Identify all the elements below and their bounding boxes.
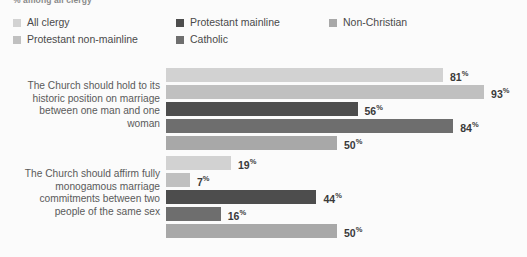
legend-item-non-christian[interactable]: Non-Christian (329, 14, 407, 31)
legend-label-non-christian: Non-Christian (343, 17, 407, 28)
legend-item-protestant-non-mainline[interactable]: Protestant non-mainline (13, 31, 138, 48)
category-label-1: The Church should affirm fully monogamou… (18, 168, 160, 218)
bar-non-christian-1 (166, 224, 337, 238)
bars-group-1: 19% 7% 44% 16% 50% (166, 156, 527, 241)
bar-group-historic-position: The Church should hold to its historic p… (0, 62, 527, 148)
bar-all-clergy-0 (166, 68, 443, 82)
bar-group-affirm-same-sex: The Church should affirm fully monogamou… (0, 150, 527, 236)
bar-all-clergy-1 (166, 156, 231, 170)
legend-row-1: All clergy Protestant mainline Non-Chris… (13, 14, 513, 31)
chart-plot-area: The Church should hold to its historic p… (0, 62, 527, 236)
bar-protestant-non-mainline-0 (166, 85, 484, 99)
bar-row[interactable]: 44% (166, 190, 527, 204)
bar-row[interactable]: 56% (166, 102, 527, 116)
legend-item-protestant-mainline[interactable]: Protestant mainline (176, 14, 280, 31)
bar-row[interactable]: 84% (166, 119, 527, 133)
bar-row[interactable]: 81% (166, 68, 527, 82)
legend-swatch-all-clergy (13, 19, 21, 27)
bar-value-non-christian-0: 50% (344, 135, 362, 152)
bar-row[interactable]: 7% (166, 173, 527, 187)
legend-swatch-protestant-mainline (176, 19, 184, 27)
bar-value-protestant-non-mainline-0: 93% (491, 84, 509, 101)
legend-label-protestant-mainline: Protestant mainline (190, 17, 280, 28)
bar-value-protestant-mainline-1: 44% (323, 189, 341, 206)
chart-legend: All clergy Protestant mainline Non-Chris… (13, 14, 513, 48)
bar-non-christian-0 (166, 136, 337, 150)
bar-row[interactable]: 93% (166, 85, 527, 99)
legend-swatch-protestant-non-mainline (13, 36, 21, 44)
bar-protestant-mainline-1 (166, 190, 316, 204)
legend-row-2: Protestant non-mainline Catholic (13, 31, 513, 48)
bar-catholic-0 (166, 119, 453, 133)
legend-label-protestant-non-mainline: Protestant non-mainline (27, 34, 138, 45)
bar-value-all-clergy-0: 81% (450, 67, 468, 84)
bar-row[interactable]: 19% (166, 156, 527, 170)
chart-subtitle: % among all clergy (13, 0, 92, 7)
legend-item-catholic[interactable]: Catholic (176, 31, 228, 48)
bar-row[interactable]: 16% (166, 207, 527, 221)
bar-value-all-clergy-1: 19% (238, 155, 256, 172)
bar-value-protestant-non-mainline-1: 7% (197, 172, 210, 189)
legend-label-all-clergy: All clergy (27, 17, 70, 28)
legend-swatch-catholic (176, 36, 184, 44)
bar-row[interactable]: 50% (166, 224, 527, 238)
bar-value-non-christian-1: 50% (344, 223, 362, 240)
bar-protestant-mainline-0 (166, 102, 358, 116)
grouped-bar-chart: % among all clergy All clergy Protestant… (0, 0, 527, 257)
legend-swatch-non-christian (329, 19, 337, 27)
bar-value-catholic-1: 16% (228, 206, 246, 223)
bars-group-0: 81% 93% 56% 84% 50% (166, 68, 527, 153)
bar-catholic-1 (166, 207, 221, 221)
bar-value-protestant-mainline-0: 56% (365, 101, 383, 118)
bar-protestant-non-mainline-1 (166, 173, 190, 187)
legend-label-catholic: Catholic (190, 34, 228, 45)
bar-row[interactable]: 50% (166, 136, 527, 150)
bar-value-catholic-0: 84% (460, 118, 478, 135)
category-label-0: The Church should hold to its historic p… (18, 80, 160, 130)
legend-item-all-clergy[interactable]: All clergy (13, 14, 70, 31)
